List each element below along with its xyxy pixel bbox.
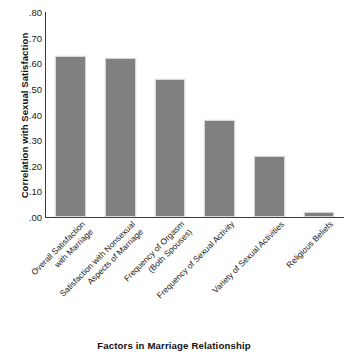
x-axis-title: Factors in Marriage Relationship — [0, 340, 348, 351]
y-tick-label: .80 — [16, 7, 42, 18]
x-tick-label-line: Variety of Sexual Activities — [194, 219, 286, 311]
x-axis-tick-labels: Overall Satisfactionwith MarriageSatisfa… — [45, 219, 343, 334]
bar-series — [46, 12, 344, 217]
bar[interactable] — [254, 156, 285, 218]
bar[interactable] — [155, 79, 186, 217]
y-axis-tick-labels: .80.70.60.50.40.30.20.10.00 — [16, 0, 42, 225]
bar-chart-figure: Correlation with Sexual Satisfaction .80… — [0, 0, 348, 361]
x-tick-label: Religious Beliefs — [243, 219, 335, 311]
bar-slot — [245, 12, 294, 217]
bar[interactable] — [204, 120, 235, 217]
y-tick-label: .50 — [16, 83, 42, 94]
y-tick-label: .60 — [16, 58, 42, 69]
bar[interactable] — [105, 58, 136, 217]
y-tick-label: .00 — [16, 212, 42, 223]
y-tick-label: .30 — [16, 135, 42, 146]
bar-slot — [96, 12, 145, 217]
bar[interactable] — [55, 56, 86, 217]
y-tick-label: .70 — [16, 32, 42, 43]
y-tick-label: .40 — [16, 109, 42, 120]
y-tick-label: .20 — [16, 160, 42, 171]
y-tick-label: .10 — [16, 186, 42, 197]
plot-area — [45, 12, 344, 218]
x-tick-label-line: Religious Beliefs — [243, 219, 335, 311]
bar[interactable] — [304, 212, 335, 217]
bar-slot — [195, 12, 244, 217]
x-tick-label: Variety of Sexual Activities — [194, 219, 286, 311]
bar-slot — [46, 12, 95, 217]
bar-slot — [145, 12, 194, 217]
bar-slot — [294, 12, 343, 217]
